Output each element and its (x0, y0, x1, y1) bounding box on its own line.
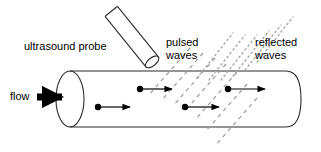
label-pulsed-waves-line2: waves (166, 49, 198, 62)
label-reflected-waves-line2: waves (255, 49, 297, 62)
label-reflected-waves-line1: reflected (255, 36, 297, 49)
pulsed-wave-lines (148, 48, 257, 146)
flow-particles (95, 86, 265, 110)
diagram-canvas: ultrasound probe flow pulsed waves refle… (0, 0, 321, 152)
pipe-cylinder (56, 71, 301, 127)
label-ultrasound-probe: ultrasound probe (24, 40, 107, 53)
label-pulsed-waves-line1: pulsed (166, 36, 198, 49)
pulsed-wave-line (173, 58, 215, 106)
particle-2 (137, 86, 172, 92)
label-pulsed-waves: pulsed waves (166, 36, 198, 62)
label-reflected-waves: reflected waves (255, 36, 297, 62)
label-flow: flow (10, 90, 30, 103)
pipe-right-end (286, 71, 301, 127)
ultrasound-probe-body (105, 6, 161, 70)
particle-3 (182, 104, 219, 110)
particle-1 (95, 104, 130, 110)
pulsed-wave-line (215, 98, 257, 146)
pulsed-wave-line (195, 72, 237, 120)
diagram-svg (0, 0, 321, 152)
